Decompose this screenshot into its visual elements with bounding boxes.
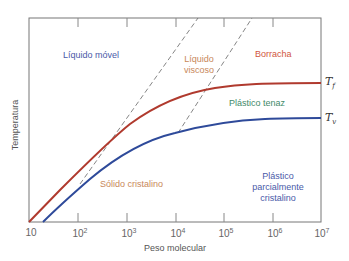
tv-label-sub: v [332, 118, 336, 126]
x-tick-base: 10 [267, 228, 278, 239]
x-tick-exp: 6 [279, 227, 283, 234]
bottom-ticks [78, 213, 273, 222]
label-borracha: Borracha [255, 49, 292, 60]
top-ticks [78, 18, 273, 27]
x-tick-exp: 7 [326, 227, 330, 234]
label-solido-cristalino: Sólido cristalino [100, 179, 163, 190]
x-tick-exp: 4 [182, 227, 186, 234]
tv-curve [43, 118, 321, 222]
label-liquido-viscoso: Líquido viscoso [174, 54, 224, 76]
x-axis-title: Peso molecular [144, 243, 206, 253]
tf-label-sub: f [332, 82, 335, 90]
x-tick-10: 10 [25, 227, 36, 238]
x-tick-base: 10 [314, 228, 325, 239]
x-tick-1e6: 106 [267, 227, 282, 239]
label-plastico-tenaz: Plástico tenaz [229, 98, 285, 109]
label-ppc-line3: cristalino [246, 193, 310, 204]
label-liquido-viscoso-line1: Líquido [174, 54, 224, 65]
dashed-boundary-1 [80, 18, 198, 184]
x-tick-base: 10 [72, 228, 83, 239]
x-tick-1e3: 103 [121, 227, 136, 239]
x-tick-base: 10 [170, 228, 181, 239]
x-tick-1e7: 107 [314, 227, 329, 239]
x-tick-base: 10 [121, 228, 132, 239]
x-tick-1e2: 102 [72, 227, 87, 239]
label-plastico-parcialmente-cristalino: Plástico parcialmente cristalino [246, 171, 310, 204]
x-tick-1e5: 105 [218, 227, 233, 239]
tv-label: Tv [325, 111, 336, 126]
x-tick-exp: 3 [133, 227, 137, 234]
y-axis-title: Temperatura [10, 95, 20, 155]
x-tick-exp: 5 [230, 227, 234, 234]
label-liquido-movel: Líquido móvel [63, 50, 119, 61]
chart-canvas [0, 0, 349, 261]
x-tick-base: 10 [218, 228, 229, 239]
label-ppc-line2: parcialmente [246, 182, 310, 193]
x-tick-exp: 2 [84, 227, 88, 234]
x-tick-base: 10 [25, 227, 36, 238]
label-ppc-line1: Plástico [246, 171, 310, 182]
x-tick-1e4: 104 [170, 227, 185, 239]
label-liquido-viscoso-line2: viscoso [174, 65, 224, 76]
tf-label: Tf [325, 75, 335, 90]
